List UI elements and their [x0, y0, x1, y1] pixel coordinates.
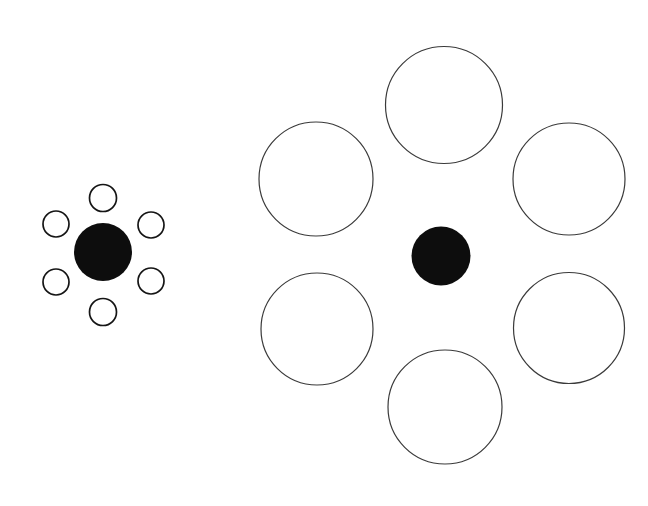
inducer-circle-lower-right	[514, 273, 625, 384]
inducer-circle-top	[90, 185, 117, 212]
inducer-circle-top	[386, 47, 503, 164]
inducer-circle-bottom	[90, 299, 117, 326]
inducer-circle-lower-right	[138, 268, 164, 294]
left-target-circle	[74, 223, 132, 281]
inducer-circle-upper-right	[513, 123, 625, 235]
inducer-circle-lower-left	[261, 273, 373, 385]
inducer-circle-upper-left	[259, 122, 373, 236]
inducer-circle-bottom	[388, 350, 502, 464]
right-target-circle	[412, 227, 471, 286]
inducer-circle-lower-left	[43, 269, 69, 295]
inducer-circle-upper-left	[43, 211, 69, 237]
ebbinghaus-illusion-figure	[0, 0, 648, 506]
inducer-circle-upper-right	[138, 212, 164, 238]
illusion-canvas	[0, 0, 648, 506]
